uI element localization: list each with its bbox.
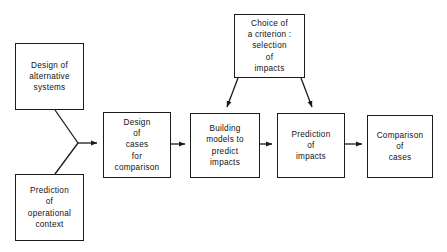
node-design-cases-comparison[interactable]: Design of cases for comparison	[103, 112, 171, 178]
node-label: Building models to predict impacts	[203, 123, 247, 168]
node-label: Choice of a criterion : selection of imp…	[245, 18, 295, 74]
node-label: Design of cases for comparison	[112, 117, 163, 173]
flowchart-diagram: Design of alternative systems Prediction…	[0, 0, 447, 252]
connector-criterion-to-building-models	[227, 78, 238, 107]
node-prediction-operational-context[interactable]: Prediction of operational context	[15, 174, 84, 241]
node-label: Prediction of operational context	[25, 185, 74, 230]
node-building-models-predict-impacts[interactable]: Building models to predict impacts	[190, 113, 260, 178]
connector-criterion-to-prediction	[301, 78, 312, 107]
connector-operational-context-to-merge	[55, 143, 78, 174]
node-design-alternative-systems[interactable]: Design of alternative systems	[15, 43, 84, 110]
node-choice-of-criterion[interactable]: Choice of a criterion : selection of imp…	[234, 14, 305, 78]
node-label: Comparison of cases	[374, 130, 427, 164]
node-prediction-of-impacts[interactable]: Prediction of impacts	[277, 113, 345, 178]
connector-alt-systems-to-merge	[55, 110, 78, 143]
node-comparison-of-cases[interactable]: Comparison of cases	[367, 115, 433, 178]
node-label: Prediction of impacts	[289, 129, 334, 163]
node-label: Design of alternative systems	[26, 60, 73, 94]
